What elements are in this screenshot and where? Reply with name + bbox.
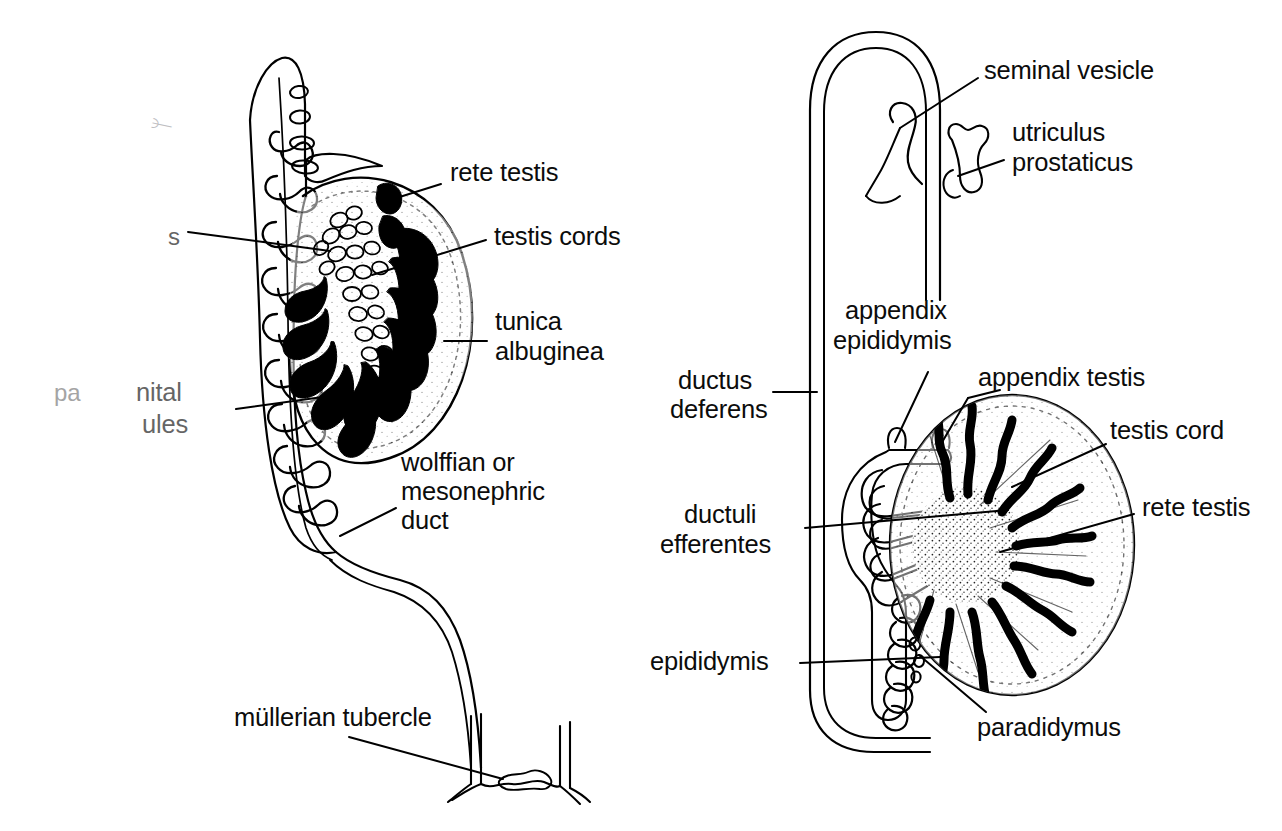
label-rete-testis-left: rete testis	[450, 157, 558, 187]
label-utriculus-line2: prostaticus	[1012, 148, 1133, 177]
label-wolffian-line3: duct	[401, 506, 448, 535]
leader-epididymis	[800, 657, 940, 663]
urogenital-sinus	[448, 714, 590, 804]
label-wolffian-line2: mesonephric	[401, 477, 545, 506]
leader-wolffian-duct	[340, 508, 396, 536]
utriculus-prostaticus	[949, 124, 989, 192]
label-appendix-epididymis-line1: appendix	[845, 296, 947, 325]
seminal-vesicle-fold2	[866, 196, 900, 203]
label-appendix-epididymis-line2: epididymis	[833, 326, 951, 355]
label-ductus-line1: ductus	[678, 366, 752, 395]
utriculus-stem	[943, 170, 960, 198]
ductus-deferens-outer	[810, 32, 940, 300]
label-partial-s: s	[168, 222, 180, 252]
wolffian-duct-left	[336, 552, 481, 768]
rete-testis-nodule	[376, 183, 402, 214]
label-ductuli-line1: ductuli	[684, 500, 756, 529]
label-partial-bules: ules	[142, 409, 188, 439]
label-rete-testis-right: rete testis	[1142, 492, 1250, 522]
label-partial-pa: pa	[54, 378, 80, 408]
label-ductuli-line2: efferentes	[660, 530, 771, 559]
label-epididymis: epididymis	[650, 646, 768, 676]
label-tunica-albuginea-line1: tunica	[495, 307, 562, 336]
label-partial-nital: nital	[136, 377, 182, 407]
label-mullerian-tubercle: müllerian tubercle	[234, 702, 432, 732]
label-tunica-albuginea-line2: albuginea	[495, 337, 604, 366]
ductus-deferens-inner	[824, 48, 926, 300]
label-wolffian-line1: wolffian or	[401, 448, 515, 477]
label-utriculus-line1: utriculus	[1012, 118, 1105, 147]
label-appendix-testis: appendix testis	[978, 362, 1145, 392]
label-seminal-vesicle: seminal vesicle	[984, 55, 1154, 85]
label-testis-cords-left: testis cords	[494, 221, 621, 251]
label-paradidymus: paradidymus	[977, 712, 1121, 742]
leader-appendix-epididymis	[895, 372, 928, 442]
label-testis-cord: testis cord	[1110, 415, 1224, 445]
seminal-vesicle	[890, 103, 922, 184]
seminal-vesicle-fold	[866, 128, 900, 196]
label-ductus-line2: deferens	[670, 395, 768, 424]
anatomical-figure: rete testis testis cords tunica albugine…	[0, 0, 1282, 831]
